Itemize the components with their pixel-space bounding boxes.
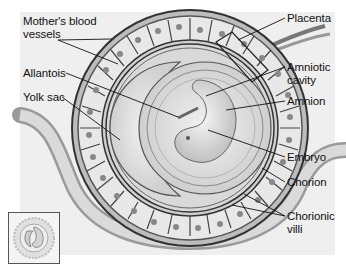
label-chorionic-villi-line2: villi <box>287 223 335 236</box>
embryo-thumbnail-icon <box>9 213 59 263</box>
label-allantois: Allantois <box>23 67 66 80</box>
label-mothers-blood-vessels: Mother's blood vessels <box>23 15 97 41</box>
embryo-thumbnail <box>8 212 60 264</box>
label-mothers-blood-vessels-line2: vessels <box>23 28 97 41</box>
label-yolk-sac: Yolk sac <box>23 91 65 104</box>
label-chorionic-villi: Chorionic villi <box>287 210 335 236</box>
label-amniotic-cavity-line2: cavity <box>287 74 330 87</box>
label-chorionic-villi-line1: Chorionic <box>287 210 335 223</box>
label-amnion: Amnion <box>287 95 325 108</box>
label-embryo: Embryo <box>287 151 326 164</box>
label-amniotic-cavity: Amniotic cavity <box>287 61 330 87</box>
label-placenta: Placenta <box>287 12 331 25</box>
label-amniotic-cavity-line1: Amniotic <box>287 61 330 74</box>
label-chorion: Chorion <box>287 176 327 189</box>
label-mothers-blood-vessels-line1: Mother's blood <box>23 15 97 28</box>
